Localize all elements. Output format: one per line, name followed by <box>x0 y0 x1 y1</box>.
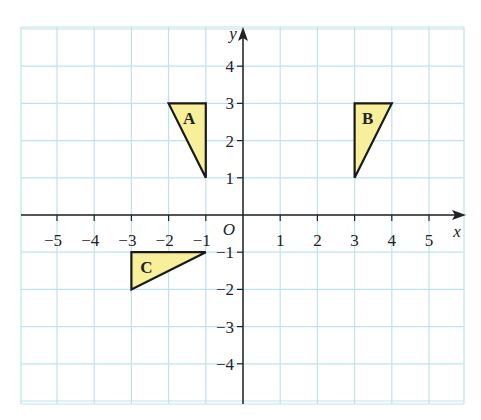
y-tick-label: −2 <box>216 280 234 299</box>
y-tick-label: 2 <box>226 132 235 151</box>
x-tick-label: −4 <box>81 231 100 250</box>
x-tick-label: −1 <box>193 231 211 250</box>
axes <box>21 27 466 404</box>
x-tick-label: 5 <box>425 231 434 250</box>
coordinate-plane: ABC −5−4−3−2−112345−4−3−2−11234Oxy <box>0 0 481 420</box>
origin-label: O <box>223 220 235 239</box>
shapes: ABC <box>131 103 391 289</box>
axis-labels: −5−4−3−2−112345−4−3−2−11234Oxy <box>44 24 461 374</box>
x-tick-label: −2 <box>156 231 174 250</box>
y-axis-label: y <box>227 24 237 43</box>
y-tick-label: 1 <box>226 169 235 188</box>
x-tick-label: 1 <box>276 231 285 250</box>
y-tick-label: −4 <box>216 355 235 374</box>
y-tick-label: 4 <box>226 57 235 76</box>
x-tick-label: 2 <box>313 231 322 250</box>
x-axis-label: x <box>452 222 461 241</box>
x-tick-label: 4 <box>388 231 397 250</box>
x-tick-label: −3 <box>118 231 136 250</box>
x-tick-label: −5 <box>44 231 62 250</box>
y-tick-label: −3 <box>216 318 234 337</box>
shape-label-c: C <box>140 258 152 277</box>
x-tick-label: 3 <box>350 231 359 250</box>
shape-label-b: B <box>362 109 373 128</box>
shape-label-a: A <box>183 109 196 128</box>
y-tick-label: −1 <box>216 243 234 262</box>
y-tick-label: 3 <box>226 94 235 113</box>
